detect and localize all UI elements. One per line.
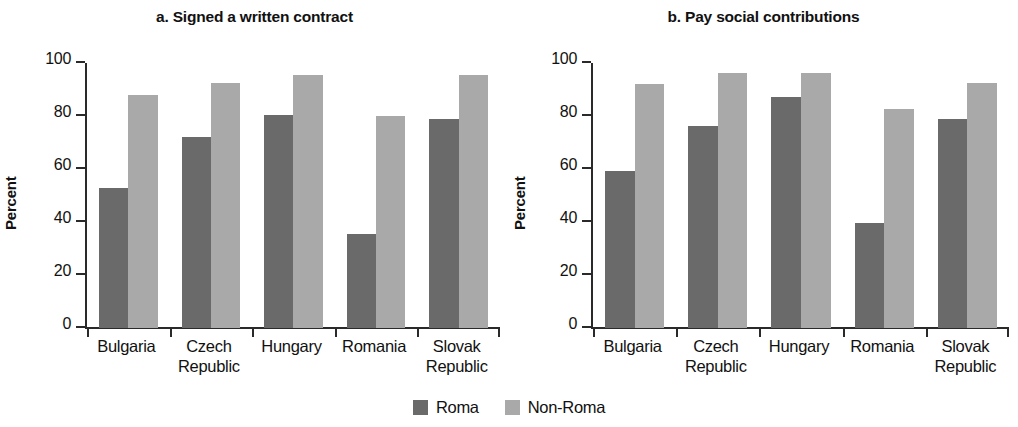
panel-a-y-tick-label: 40 [54, 209, 71, 227]
panel-b-y-tick: 60 [582, 167, 591, 169]
panel-b-y-tick: 80 [582, 114, 591, 116]
panel-a-y-tick: 80 [76, 114, 85, 116]
panel-a-y-tick: 20 [76, 273, 85, 275]
panel-a-y-tick-label: 100 [45, 50, 71, 68]
chart-legend: RomaNon-Roma [0, 398, 1018, 417]
panel-a-y-tick: 0 [76, 326, 85, 328]
panel-b-y-tick: 100 [582, 61, 591, 63]
panel-a-y-axis-label: Percent [2, 148, 30, 258]
panel-a-title: a. Signed a written contract [0, 8, 509, 26]
bar-roma-slovak-republic [938, 119, 968, 328]
bar-non-roma-bulgaria [128, 95, 157, 328]
panel-b-plot-area: 020406080100 [591, 63, 1009, 328]
panel-b-y-tick-label: 20 [560, 262, 577, 280]
bar-non-roma-czech-republic [211, 83, 240, 328]
bar-roma-czech-republic [182, 137, 211, 328]
bar-group [252, 63, 335, 328]
panel-b-y-tick: 40 [582, 220, 591, 222]
bar-roma-bulgaria [99, 188, 128, 328]
bar-non-roma-slovak-republic [967, 83, 997, 328]
legend-swatch-icon [413, 400, 428, 415]
bar-group [417, 63, 500, 328]
panel-a-y-tick-label: 20 [54, 262, 71, 280]
panel-a-y-tick: 60 [76, 167, 85, 169]
panel-a-y-tick-label: 60 [54, 156, 71, 174]
bar-roma-hungary [771, 97, 801, 328]
bar-group [676, 63, 759, 328]
bar-roma-romania [855, 223, 885, 328]
panel-b-y-tick: 0 [582, 326, 591, 328]
bar-group [926, 63, 1009, 328]
bar-roma-hungary [264, 115, 293, 328]
bar-roma-slovak-republic [429, 119, 458, 328]
panel-b-y-tick-label: 100 [551, 50, 577, 68]
bar-group [87, 63, 170, 328]
bar-group [759, 63, 842, 328]
panel-a-y-tick: 40 [76, 220, 85, 222]
panel-b-x-axis-labels: BulgariaCzechRepublicHungaryRomaniaSlova… [591, 336, 1009, 392]
x-axis-category-label: SlovakRepublic [405, 336, 507, 376]
panel-b-y-tick: 20 [582, 273, 591, 275]
bar-non-roma-hungary [293, 75, 322, 328]
panel-a-y-tick: 100 [76, 61, 85, 63]
panel-b-y-tick-label: 0 [568, 315, 577, 333]
bar-group [593, 63, 676, 328]
legend-label: Roma [436, 398, 479, 417]
bar-non-roma-slovak-republic [459, 75, 488, 328]
panel-a-y-tick-label: 0 [62, 315, 71, 333]
panel-a-plot-area: 020406080100 [85, 63, 500, 328]
bar-roma-romania [347, 234, 376, 328]
panel-b-bars [593, 63, 1009, 328]
panel-a-bars [87, 63, 500, 328]
chart-panel-a: a. Signed a written contract Percent 020… [0, 0, 509, 392]
chart-panel-b: b. Pay social contributions Percent 0204… [509, 0, 1018, 392]
legend-label: Non-Roma [528, 398, 605, 417]
figure: a. Signed a written contract Percent 020… [0, 0, 1018, 427]
panel-b-y-axis-label: Percent [511, 148, 539, 258]
panel-b-y-tick-label: 60 [560, 156, 577, 174]
bar-roma-bulgaria [605, 171, 635, 328]
panel-b-y-tick-label: 80 [560, 103, 577, 121]
panel-a-y-tick-label: 80 [54, 103, 71, 121]
panel-b-y-tick-label: 40 [560, 209, 577, 227]
bar-non-roma-hungary [801, 73, 831, 328]
bar-group [170, 63, 253, 328]
legend-item-roma: Roma [413, 398, 479, 417]
bar-roma-czech-republic [688, 126, 718, 328]
bar-non-roma-czech-republic [718, 73, 748, 328]
bar-group [843, 63, 926, 328]
bar-non-roma-romania [884, 109, 914, 328]
x-axis-category-label: SlovakRepublic [914, 336, 1017, 376]
legend-swatch-icon [505, 400, 520, 415]
panel-b-title: b. Pay social contributions [509, 8, 1018, 26]
bar-non-roma-romania [376, 116, 405, 328]
legend-item-non-roma: Non-Roma [505, 398, 605, 417]
bar-group [335, 63, 418, 328]
bar-non-roma-bulgaria [635, 84, 665, 328]
panel-a-x-axis-labels: BulgariaCzechRepublicHungaryRomaniaSlova… [85, 336, 500, 392]
